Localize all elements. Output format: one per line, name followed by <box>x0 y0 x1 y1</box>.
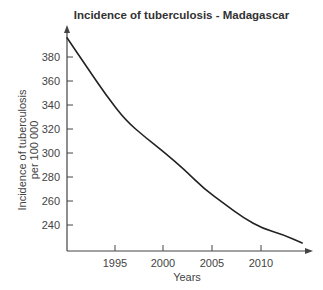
line-chart: 240 260 280 300 320 340 360 380 1995 200… <box>0 0 323 290</box>
x-axis-label: Years <box>173 271 201 283</box>
y-tick-label: 300 <box>42 147 60 159</box>
x-ticks: 1995 2000 2005 2010 <box>103 245 273 269</box>
y-axis-label-line2: per 100 000 <box>28 121 40 180</box>
x-tick-label: 2005 <box>200 257 224 269</box>
x-axis-arrow-icon <box>305 248 313 254</box>
y-axis-label-line1: Incidence of tuberculosis <box>16 89 28 211</box>
y-tick-label: 280 <box>42 171 60 183</box>
x-tick-label: 2000 <box>151 257 175 269</box>
y-tick-label: 240 <box>42 219 60 231</box>
y-axis <box>64 25 70 251</box>
x-tick-label: 2010 <box>249 257 273 269</box>
x-tick-label: 1995 <box>103 257 127 269</box>
data-line <box>67 38 302 243</box>
y-tick-label: 320 <box>42 123 60 135</box>
x-axis <box>67 248 313 254</box>
y-tick-label: 380 <box>42 51 60 63</box>
y-axis-arrow-icon <box>64 25 70 33</box>
y-axis-label: Incidence of tuberculosis per 100 000 <box>16 89 40 211</box>
y-ticks: 240 260 280 300 320 340 360 380 <box>42 51 73 231</box>
y-tick-label: 360 <box>42 75 60 87</box>
y-tick-label: 260 <box>42 195 60 207</box>
y-tick-label: 340 <box>42 99 60 111</box>
